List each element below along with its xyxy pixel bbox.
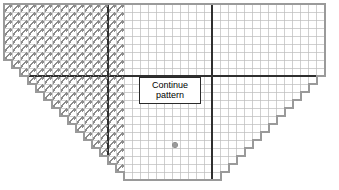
continue-pattern-line2: pattern [143, 90, 197, 100]
center-dot-icon [172, 142, 177, 147]
continue-pattern-label: Continue pattern [139, 77, 201, 104]
knitting-chart: Continue pattern [0, 0, 339, 190]
continue-pattern-line1: Continue [143, 80, 197, 90]
